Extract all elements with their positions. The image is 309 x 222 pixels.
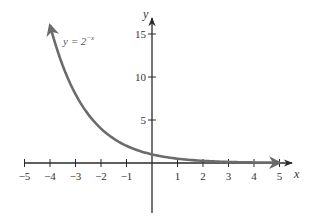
y-tick-label: 10: [135, 71, 147, 83]
equation-base: y = 2: [62, 35, 87, 47]
x-tick-label: 1: [175, 170, 181, 182]
y-tick-label: 5: [141, 114, 147, 126]
x-tick-label: −1: [121, 170, 133, 182]
x-tick-label: −4: [44, 170, 56, 182]
x-tick-label: 2: [200, 170, 206, 182]
x-tick-label: 5: [277, 170, 283, 182]
x-tick-label: −2: [95, 170, 107, 182]
y-axis-ticks: 51015: [135, 28, 156, 126]
y-tick-label: 15: [135, 28, 147, 40]
x-tick-label: −5: [19, 170, 31, 182]
x-tick-label: −3: [70, 170, 82, 182]
x-tick-label: 3: [226, 170, 232, 182]
x-tick-label: 4: [251, 170, 257, 182]
equation-label: y = 2−x: [62, 34, 95, 47]
y-axis-label: y: [142, 7, 149, 21]
equation-exponent: −x: [86, 34, 95, 42]
exponential-chart: −5−4−3−2−112345 51015 x y y = 2−x: [0, 0, 309, 222]
x-axis-label: x: [293, 167, 300, 181]
